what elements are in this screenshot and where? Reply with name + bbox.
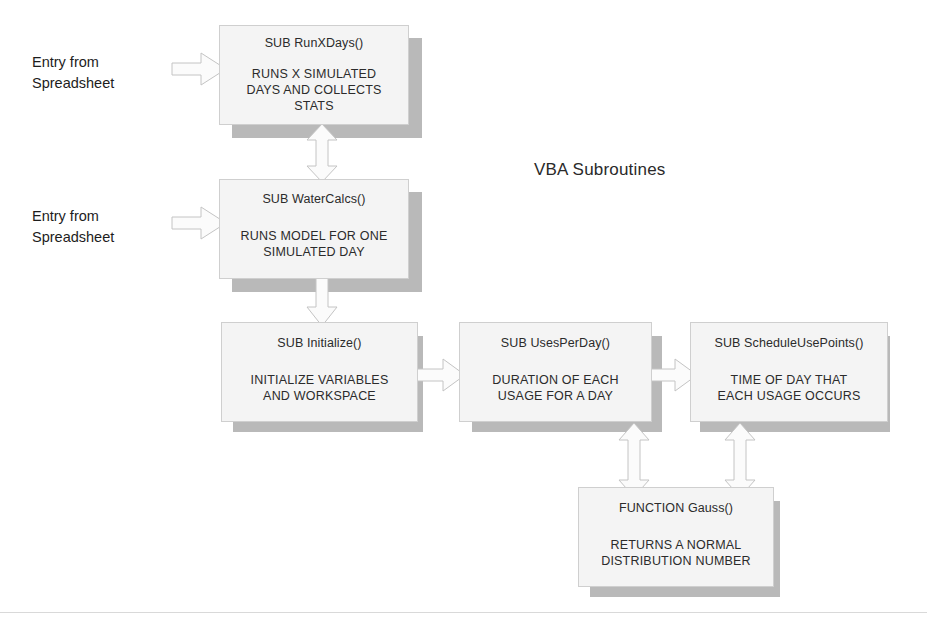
process-box-gauss[interactable]: FUNCTION Gauss() RETURNS A NORMAL DISTRI…: [578, 487, 774, 587]
connector-watercalcs-initialize-arrow-icon: [306, 275, 338, 327]
process-box-body: INITIALIZE VARIABLES AND WORKSPACE: [251, 372, 389, 404]
process-box-body: TIME OF DAY THAT EACH USAGE OCCURS: [717, 372, 860, 404]
process-box-initialize[interactable]: SUB Initialize() INITIALIZE VARIABLES AN…: [221, 322, 418, 422]
process-box-title: SUB ScheduleUsePoints(): [715, 336, 864, 350]
process-box-usesperday[interactable]: SUB UsesPerDay() DURATION OF EACH USAGE …: [459, 322, 652, 422]
process-box-scheduleusepoints[interactable]: SUB ScheduleUsePoints() TIME OF DAY THAT…: [690, 322, 888, 422]
process-box-title: FUNCTION Gauss(): [619, 501, 733, 515]
process-box-runxdays[interactable]: SUB RunXDays() RUNS X SIMULATED DAYS AND…: [219, 25, 409, 125]
process-box-title: SUB Initialize(): [277, 336, 361, 350]
process-box-body: RUNS X SIMULATED DAYS AND COLLECTS STATS: [246, 66, 381, 114]
connector-runxdays-watercalcs-double-arrow-icon: [305, 123, 339, 183]
process-box-body: RETURNS A NORMAL DISTRIBUTION NUMBER: [601, 537, 751, 569]
entry-label-runxdays: Entry from Spreadsheet: [32, 52, 114, 94]
scan-edge-line: [0, 612, 927, 613]
process-box-title: SUB WaterCalcs(): [262, 192, 365, 206]
diagram-canvas: SUB RunXDays() RUNS X SIMULATED DAYS AND…: [0, 0, 927, 617]
process-box-body: RUNS MODEL FOR ONE SIMULATED DAY: [241, 228, 388, 260]
entry-label-watercalcs: Entry from Spreadsheet: [32, 206, 114, 248]
diagram-heading: VBA Subroutines: [534, 160, 666, 180]
process-box-title: SUB UsesPerDay(): [501, 336, 610, 350]
process-box-watercalcs[interactable]: SUB WaterCalcs() RUNS MODEL FOR ONE SIMU…: [219, 179, 409, 279]
process-box-body: DURATION OF EACH USAGE FOR A DAY: [492, 372, 619, 404]
process-box-title: SUB RunXDays(): [265, 36, 364, 50]
